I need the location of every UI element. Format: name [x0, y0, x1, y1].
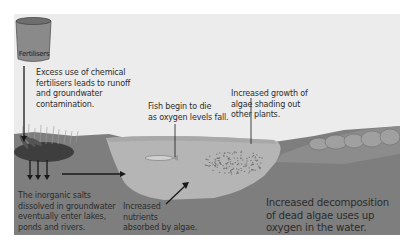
- eutrophication-diagram: Fertilisers Excess use of chemical ferti…: [14, 14, 400, 235]
- decomposition-line-1: Increased decomposition: [266, 197, 389, 210]
- algae-particle: [236, 173, 237, 174]
- algae-particle: [219, 158, 220, 159]
- runoff-label: Excess use of chemical fertilisers leads…: [36, 68, 130, 110]
- algae-particle: [245, 166, 246, 167]
- algae-particle: [226, 164, 227, 165]
- algae-particle: [232, 154, 233, 155]
- algae-particle: [207, 165, 208, 166]
- algae-particle: [244, 165, 245, 166]
- algae-particle: [244, 171, 245, 172]
- algae-particle: [215, 164, 216, 165]
- algae-particle: [217, 165, 218, 166]
- algae-particle: [230, 171, 231, 172]
- algae-particle: [224, 153, 225, 154]
- algae-particle: [232, 164, 233, 165]
- algae-growth-line-2: algae shading out: [231, 100, 308, 111]
- barrel-label: Fertilisers: [14, 50, 54, 58]
- algae-particle: [214, 165, 215, 166]
- algae-particle: [255, 160, 256, 161]
- algae-particle: [251, 169, 252, 170]
- algae-particle: [230, 161, 231, 162]
- algae-particle: [241, 170, 242, 171]
- algae-growth-line-1: Increased growth of: [231, 89, 308, 100]
- algae-particle: [255, 170, 256, 171]
- algae-particle: [235, 152, 236, 153]
- runoff-line-1: Excess use of chemical: [36, 68, 130, 79]
- algae-particle: [219, 163, 220, 164]
- algae-particle: [242, 160, 243, 161]
- algae-particle: [205, 159, 206, 160]
- algae-particle: [255, 158, 256, 159]
- runoff-line-4: contamination.: [36, 100, 130, 111]
- algae-particle: [253, 153, 254, 154]
- decomposition-label: Increased decomposition of dead algae us…: [266, 197, 389, 235]
- algae-particle: [223, 156, 224, 157]
- algae-particle: [237, 164, 238, 165]
- fish-line-2: as oxygen levels fall.: [148, 113, 229, 124]
- algae-particle: [255, 157, 256, 158]
- algae-particle: [252, 156, 253, 157]
- algae-particle: [229, 153, 230, 154]
- algae-particle: [246, 163, 247, 164]
- algae-particle: [230, 163, 231, 164]
- fish-line-1: Fish begin to die: [148, 102, 229, 113]
- algae-particle: [259, 167, 260, 168]
- algae-particle: [205, 165, 206, 166]
- algae-particle: [237, 160, 238, 161]
- algae-particle: [214, 162, 215, 163]
- algae-particle: [238, 169, 239, 170]
- nutrients-line-2: nutrients: [123, 213, 197, 224]
- algae-particle: [209, 156, 210, 157]
- algae-particle: [246, 158, 247, 159]
- dark-soil: [14, 142, 74, 162]
- algae-particle: [249, 157, 250, 158]
- algae-particle: [227, 156, 228, 157]
- algae-particle: [259, 157, 260, 158]
- algae-particle: [226, 167, 227, 168]
- algae-particle: [240, 155, 241, 156]
- algae-particle: [224, 173, 225, 174]
- algae-particle: [213, 164, 214, 165]
- algae-particle: [209, 165, 210, 166]
- algae-particle: [236, 169, 237, 170]
- algae-particle: [231, 169, 232, 170]
- algae-particle: [261, 158, 262, 159]
- algae-particle: [257, 160, 258, 161]
- algae-particle: [228, 172, 229, 173]
- algae-particle: [249, 171, 250, 172]
- algae-particle: [243, 166, 244, 167]
- salts-line-4: ponds and rivers.: [18, 223, 115, 234]
- algae-particle: [234, 151, 235, 152]
- algae-particle: [209, 166, 210, 167]
- algae-particle: [229, 158, 230, 159]
- algae-particle: [234, 158, 235, 159]
- salts-line-2: dissolved in groundwater: [18, 202, 115, 213]
- algae-particle: [258, 166, 259, 167]
- algae-particle: [215, 161, 216, 162]
- decomposition-line-3: oxygen in the water.: [266, 222, 389, 235]
- algae-particle: [250, 160, 251, 161]
- algae-particle: [216, 154, 217, 155]
- algae-particle: [237, 171, 238, 172]
- algae-particle: [247, 161, 248, 162]
- algae-particle: [212, 170, 213, 171]
- nutrients-label: Increased nutrients absorbed by algae.: [123, 202, 197, 234]
- salts-label: The inorganic salts dissolved in groundw…: [18, 191, 115, 233]
- algae-particle: [253, 155, 254, 156]
- algae-particle: [231, 172, 232, 173]
- algae-particle: [237, 158, 238, 159]
- runoff-line-3: and groundwater: [36, 89, 130, 100]
- algae-particle: [223, 168, 224, 169]
- algae-particle: [260, 163, 261, 164]
- algae-particle: [234, 152, 235, 153]
- algae-particle: [252, 162, 253, 163]
- nutrients-line-3: absorbed by algae.: [123, 223, 197, 234]
- algae-particle: [241, 151, 242, 152]
- algae-particle: [222, 165, 223, 166]
- decomposition-line-2: of dead algae uses up: [266, 210, 389, 223]
- algae-particle: [217, 167, 218, 168]
- algae-particle: [215, 163, 216, 164]
- algae-particle: [231, 174, 232, 175]
- fish-label: Fish begin to die as oxygen levels fall.: [148, 102, 229, 123]
- algae-growth-line-3: other plants.: [231, 110, 308, 121]
